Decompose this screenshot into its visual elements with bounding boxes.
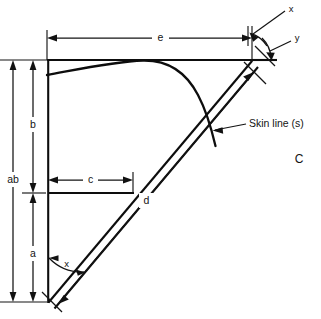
- dimension-e: e: [47, 26, 252, 62]
- dimension-e-arrow-right: [242, 35, 252, 42]
- dimension-c-arrow-right: [123, 177, 133, 184]
- angle-y-label: y: [295, 32, 300, 43]
- dimension-c-arrow-left: [48, 177, 58, 184]
- dimension-b-arrow-bottom: [30, 183, 37, 193]
- angle-x-bottom-arrow-left: [49, 255, 59, 261]
- skin-line-leader-arrow: [213, 127, 224, 134]
- dimension-d-arrow-upper: [243, 72, 254, 81]
- dimension-a: a: [25, 193, 41, 302]
- dimension-ab-arrow-top: [10, 60, 17, 70]
- bracket-diagram-svg: e ab b a: [0, 0, 321, 319]
- dimension-d-arrow-lower: [58, 295, 69, 304]
- dimension-b-label: b: [30, 118, 36, 130]
- dimension-e-arrow-left: [47, 35, 57, 42]
- dimension-ab: ab: [4, 60, 22, 302]
- angle-markers-top-right: x y: [248, 3, 300, 66]
- diagonal-strut-upper-line: [49, 61, 253, 303]
- skin-line-label: Skin line (s): [249, 117, 304, 129]
- dimension-e-label: e: [158, 31, 164, 43]
- dimension-a-arrow-bottom: [30, 292, 37, 302]
- angle-y-leader: [270, 41, 291, 51]
- figure-container: e ab b a: [0, 0, 321, 319]
- dimension-c: c: [48, 172, 133, 193]
- dimension-ab-label: ab: [7, 173, 19, 185]
- dimension-c-label: c: [88, 173, 93, 185]
- dimension-ab-arrow-bottom: [10, 292, 17, 302]
- dimension-d-label: d: [144, 194, 150, 206]
- angle-x-bottom-label: x: [64, 258, 69, 269]
- skin-line-callout: Skin line (s): [213, 117, 304, 134]
- angle-x-leader: [253, 11, 285, 34]
- angle-x-top-label: x: [289, 3, 294, 14]
- dimension-d-line: [63, 78, 249, 298]
- dimension-b: b: [25, 60, 41, 193]
- dimension-a-arrow-top: [30, 193, 37, 203]
- dimension-d: d: [42, 62, 266, 312]
- dimension-b-arrow-top: [30, 60, 37, 70]
- dimension-a-label: a: [30, 247, 36, 259]
- panel-label: C: [295, 152, 304, 166]
